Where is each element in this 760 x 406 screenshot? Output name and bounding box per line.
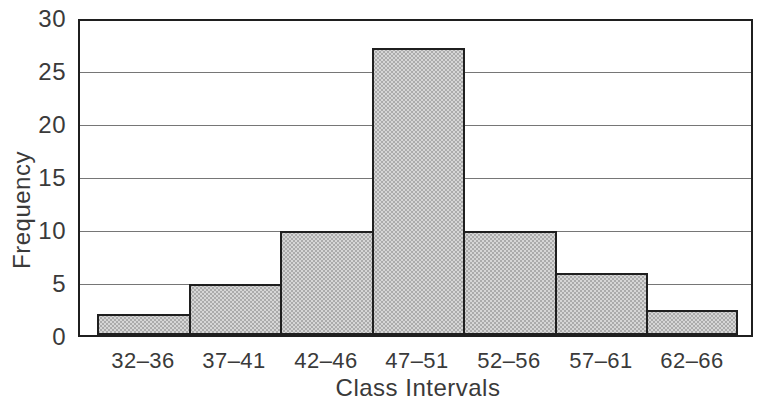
y-tick-label: 0 <box>4 323 66 351</box>
histogram-bar <box>280 231 374 335</box>
x-axis-title: Class Intervals <box>298 375 538 401</box>
y-tick-label: 15 <box>4 164 66 192</box>
histogram-bar <box>97 314 191 335</box>
histogram-bar <box>463 231 557 335</box>
y-tick-label: 25 <box>4 58 66 86</box>
histogram-bar <box>189 284 282 335</box>
y-tick-label: 30 <box>4 5 66 33</box>
x-tick-label: 62–66 <box>632 349 752 373</box>
y-tick-label: 20 <box>4 111 66 139</box>
y-tick-label: 5 <box>4 270 66 298</box>
histogram-figure: Frequency 051015202530 32–3637–4142–4647… <box>0 0 760 406</box>
plot-area <box>78 19 753 337</box>
y-tick-label: 10 <box>4 217 66 245</box>
histogram-bar <box>646 310 738 335</box>
histogram-bar <box>372 48 465 335</box>
histogram-bar <box>555 273 648 335</box>
